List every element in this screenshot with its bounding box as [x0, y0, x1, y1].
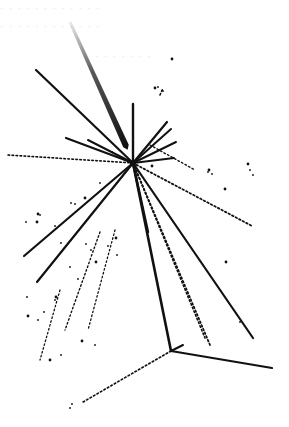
interaction-vertex — [130, 160, 136, 166]
dotted-tracks — [8, 88, 252, 402]
solid-tracks — [24, 70, 272, 368]
particle-track-photograph — [0, 0, 289, 427]
emulsion-specks — [25, 58, 254, 409]
